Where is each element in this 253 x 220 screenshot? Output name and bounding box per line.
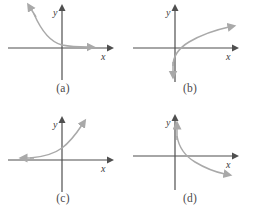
x-axis-label: x [100, 51, 106, 62]
graph-b-plot: y x [127, 0, 253, 88]
graph-d-plot: y x [127, 110, 253, 198]
graph-panel-d: y x (d) [127, 110, 253, 220]
curve-a [34, 14, 88, 47]
curve-b [173, 27, 229, 66]
y-axis-label: y [165, 7, 171, 18]
graph-panel-a: y x (a) [0, 0, 126, 110]
caption-a: (a) [0, 82, 126, 94]
y-axis-label: y [52, 7, 58, 18]
curve-d [177, 136, 225, 174]
x-axis-label: x [225, 51, 231, 62]
graph-a-plot: y x [0, 0, 126, 88]
x-axis-label: x [100, 163, 106, 174]
caption-c: (c) [0, 192, 126, 204]
curve-a-start-arrow [31, 9, 36, 17]
y-axis-label: y [52, 119, 58, 130]
graph-panel-c: y x (c) [0, 110, 126, 220]
graph-panel-b: y x (b) [127, 0, 253, 110]
x-axis-label: x [225, 159, 231, 170]
figure-four-graphs: y x (a) y x (b) [0, 0, 253, 220]
graph-c-plot: y x [0, 110, 126, 198]
y-axis-label: y [165, 117, 171, 128]
caption-d: (d) [127, 192, 253, 204]
caption-b: (b) [127, 82, 253, 94]
